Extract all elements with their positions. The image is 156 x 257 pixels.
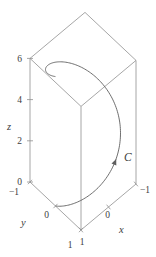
- figure-svg: 0246−10110−1zyxC: [0, 0, 156, 257]
- box-edge: [85, 12, 136, 60]
- box-edge: [81, 60, 136, 106]
- x-tick-label: −1: [140, 185, 150, 195]
- z-tick-label: 2: [17, 136, 22, 146]
- z-tick-label: 6: [17, 54, 22, 64]
- z-tick-label: 4: [17, 95, 22, 105]
- box-edge: [30, 12, 85, 58]
- box-edge: [30, 58, 81, 106]
- y-tick-label: 0: [44, 210, 49, 220]
- y-tick-label: −1: [9, 187, 19, 197]
- curve-label: C: [124, 151, 132, 163]
- x-tick-label: 0: [105, 210, 110, 220]
- helix-3d-figure: 0246−10110−1zyxC: [0, 0, 156, 257]
- y-tick-label: 1: [68, 240, 73, 250]
- x-axis-label: x: [118, 224, 124, 235]
- y-axis-label: y: [20, 217, 26, 228]
- z-tick-label: 0: [17, 177, 22, 187]
- z-axis-label: z: [6, 121, 11, 132]
- x-tick-label: 1: [80, 237, 85, 247]
